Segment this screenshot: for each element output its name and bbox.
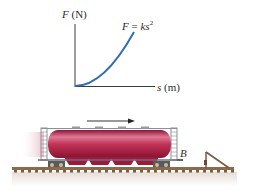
equation-label: F = ks2 — [122, 20, 153, 32]
track-bumper — [204, 152, 229, 168]
equation-lhs: F — [122, 20, 129, 32]
force-curve — [75, 32, 134, 86]
equation-equals: = — [129, 20, 141, 32]
equation-rhs: ks — [140, 20, 149, 32]
rail — [12, 167, 234, 170]
equation-exponent: 2 — [150, 19, 154, 27]
force-displacement-graph — [75, 24, 155, 87]
track — [12, 167, 237, 186]
ballast — [12, 172, 237, 186]
x-axis-variable: s — [157, 81, 161, 93]
y-axis-variable: F — [62, 8, 69, 20]
point-B-label: B — [180, 148, 187, 159]
y-axis-label: F (N) — [62, 9, 87, 20]
motion-blur — [20, 132, 44, 157]
coupler-B — [177, 159, 183, 161]
hopper-railcar — [20, 127, 183, 168]
y-axis-unit: (N) — [71, 8, 86, 20]
x-axis-label: s (m) — [157, 82, 180, 93]
motion-arrow-icon — [87, 119, 135, 124]
tank — [48, 130, 171, 158]
hoppers — [64, 157, 159, 165]
x-axis-unit: (m) — [164, 81, 180, 93]
